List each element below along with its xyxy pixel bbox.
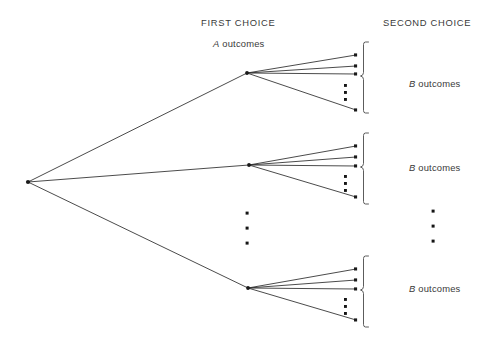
endpoint-dot-top-4 bbox=[354, 108, 357, 111]
endpoint-dot-bottom-2 bbox=[354, 278, 357, 281]
tree-diagram-canvas: FIRST CHOICE SECOND CHOICE A outcomes B … bbox=[0, 0, 499, 348]
branch-top-2 bbox=[247, 66, 356, 73]
cluster-ellipsis-dot-bottom-1 bbox=[344, 298, 347, 301]
endpoint-dot-bottom-4 bbox=[354, 318, 357, 321]
brace-top bbox=[361, 42, 369, 113]
label-b-outcomes-middle: B outcomes bbox=[409, 163, 461, 172]
branch-top-3 bbox=[247, 73, 356, 74]
endpoint-dot-middle-3 bbox=[354, 164, 357, 167]
cluster-middle bbox=[247, 133, 368, 204]
brace-middle bbox=[361, 133, 369, 204]
first-choice-node-bottom bbox=[246, 286, 250, 290]
cluster-top bbox=[245, 42, 368, 113]
fc-ellipsis-dot-2 bbox=[246, 227, 249, 230]
trunk-line-bottom bbox=[28, 182, 248, 288]
trunk-line-middle bbox=[28, 165, 249, 182]
sc-ellipsis-dot-1 bbox=[432, 210, 435, 213]
heading-first-choice: FIRST CHOICE bbox=[201, 18, 275, 27]
endpoint-dot-middle-2 bbox=[354, 155, 357, 158]
trunk-lines bbox=[28, 73, 249, 288]
cluster-ellipsis-dot-top-2 bbox=[344, 91, 347, 94]
endpoint-dot-middle-1 bbox=[354, 144, 357, 147]
cluster-ellipsis-dot-top-1 bbox=[344, 84, 347, 87]
label-b-outcomes-bottom: B outcomes bbox=[409, 284, 461, 293]
cluster-ellipsis-dot-middle-1 bbox=[344, 175, 347, 178]
label-b-text-middle: outcomes bbox=[415, 162, 460, 173]
brace-bottom bbox=[361, 256, 369, 327]
endpoint-dot-top-2 bbox=[354, 64, 357, 67]
branch-middle-2 bbox=[249, 157, 356, 165]
branch-bottom-4 bbox=[248, 288, 356, 320]
cluster-ellipsis-dot-bottom-2 bbox=[344, 305, 347, 308]
trunk-line-top bbox=[28, 73, 247, 182]
branch-bottom-3 bbox=[248, 288, 356, 289]
cluster-ellipsis-dot-middle-2 bbox=[344, 182, 347, 185]
branch-middle-4 bbox=[249, 165, 356, 197]
branch-bottom-2 bbox=[248, 280, 356, 288]
cluster-bottom bbox=[246, 256, 368, 327]
endpoint-dot-top-1 bbox=[354, 53, 357, 56]
sc-ellipsis-dot-3 bbox=[432, 240, 435, 243]
label-b-text-top: outcomes bbox=[415, 78, 460, 89]
first-choice-node-top bbox=[245, 71, 249, 75]
branch-middle-1 bbox=[249, 146, 356, 165]
heading-second-choice: SECOND CHOICE bbox=[383, 18, 471, 27]
cluster-ellipsis-dot-top-3 bbox=[344, 98, 347, 101]
first-choice-vertical-ellipsis bbox=[246, 212, 249, 245]
label-a-outcomes: A outcomes bbox=[213, 39, 265, 48]
endpoint-dot-top-3 bbox=[354, 72, 357, 75]
endpoint-dot-bottom-1 bbox=[354, 267, 357, 270]
sc-ellipsis-dot-2 bbox=[432, 225, 435, 228]
cluster-ellipsis-dot-middle-3 bbox=[344, 189, 347, 192]
root-node-dot bbox=[26, 180, 30, 184]
fc-ellipsis-dot-3 bbox=[246, 242, 249, 245]
label-b-text-bottom: outcomes bbox=[415, 283, 460, 294]
label-b-outcomes-top: B outcomes bbox=[409, 79, 461, 88]
endpoint-dot-bottom-3 bbox=[354, 287, 357, 290]
tree-diagram-graphic bbox=[0, 0, 499, 348]
second-choice-vertical-ellipsis bbox=[432, 210, 435, 243]
branch-top-1 bbox=[247, 55, 356, 73]
endpoint-dot-middle-4 bbox=[354, 195, 357, 198]
first-choice-node-middle bbox=[247, 163, 251, 167]
label-a-text: outcomes bbox=[219, 38, 264, 49]
fc-ellipsis-dot-1 bbox=[246, 212, 249, 215]
branch-bottom-1 bbox=[248, 269, 356, 288]
branch-top-4 bbox=[247, 73, 356, 110]
branch-middle-3 bbox=[249, 165, 356, 166]
cluster-ellipsis-dot-bottom-3 bbox=[344, 312, 347, 315]
